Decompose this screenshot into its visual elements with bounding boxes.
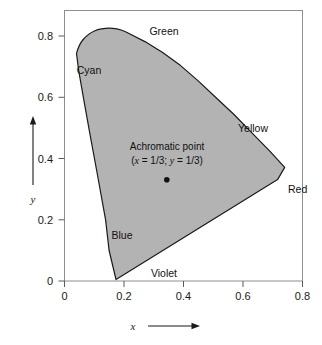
x-tick-label-0.6: 0.6 [235,290,250,302]
achromatic-point-marker [164,177,170,183]
x-tick-label-0: 0 [61,290,67,302]
y-tick-label-0.4: 0.4 [38,153,53,165]
label-yellow: Yellow [238,122,268,134]
x-tick-label-0.8: 0.8 [295,290,310,302]
label-blue: Blue [111,229,132,241]
x-tick-label-0.4: 0.4 [176,290,191,302]
y-tick-label-0.8: 0.8 [38,30,53,42]
label-red: Red [288,183,307,195]
label-violet: Violet [151,267,177,279]
x-axis-title: x [130,320,136,332]
label-green: Green [149,25,178,37]
coords-close: = 1/3) [174,155,203,166]
y-axis-tick-labels: 0 0.2 0.4 0.6 0.8 [38,30,53,287]
x-tick-label-0.2: 0.2 [116,290,131,302]
x-axis-ticks [65,281,303,287]
y-axis-arrow [30,116,36,185]
x-axis-arrow [148,323,200,329]
achromatic-point-coords: (x = 1/3; y = 1/3) [131,155,203,166]
y-tick-label-0.6: 0.6 [38,91,53,103]
y-axis-ticks [59,36,65,281]
y-tick-label-0: 0 [47,275,53,287]
chart-canvas: 0 0.2 0.4 0.6 0.8 0 0.2 0.4 0.6 0.8 Gree… [0,0,322,345]
coords-mid: = 1/3; [139,155,170,166]
x-axis-tick-labels: 0 0.2 0.4 0.6 0.8 [61,290,310,302]
label-cyan: Cyan [77,64,102,76]
y-tick-label-0.2: 0.2 [38,214,53,226]
y-axis-title: y [30,193,36,205]
chromaticity-diagram-figure: 0 0.2 0.4 0.6 0.8 0 0.2 0.4 0.6 0.8 Gree… [0,0,322,345]
achromatic-point-label: Achromatic point [130,141,205,152]
